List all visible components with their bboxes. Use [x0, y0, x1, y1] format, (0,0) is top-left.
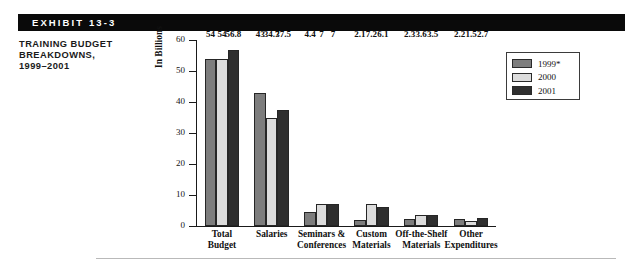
x-axis-category-label-line: Materials [352, 240, 390, 251]
y-tick-0: 0 [189, 226, 197, 227]
bar-1999-2[interactable] [254, 93, 266, 226]
bar-group: 4334.737.5Salaries [247, 40, 297, 226]
figure-title-line-3: 1999–2001 [19, 61, 154, 72]
x-axis-category-label-line: Budget [208, 240, 236, 251]
x-axis-category-label: TotalBudget [208, 229, 236, 250]
chart-plot-area: In Billions 0102030405060 545456.8TotalB… [156, 40, 496, 232]
bar-group: 2.21.52.7OtherExpenditures [446, 40, 496, 226]
bar-2000-2[interactable] [266, 118, 278, 226]
bar-slot: 43 [254, 40, 266, 226]
bar-value-label: 37.5 [275, 29, 291, 39]
bar-group: 2.33.63.5Off-the-ShelfMaterials [396, 40, 446, 226]
y-tick-10: 10 [189, 195, 197, 196]
y-tick-50: 50 [189, 71, 197, 72]
bar-2000-6[interactable] [465, 221, 477, 226]
legend-label-2001: 2001 [538, 86, 556, 96]
bar-group-bars: 545456.8 [197, 40, 247, 226]
x-axis-category-label-line: Expenditures [445, 240, 498, 251]
legend-swatch-2001 [512, 86, 532, 95]
bar-value-label: 7.2 [366, 29, 377, 39]
figure-title-line-1: TRAINING BUDGET [19, 39, 154, 50]
y-tick-20: 20 [189, 164, 197, 165]
bar-2000-5[interactable] [415, 215, 427, 226]
chart-legend: 1999* 2000 2001 [506, 52, 580, 100]
exhibit-figure: EXHIBIT 13-3 TRAINING BUDGET BREAKDOWNS,… [0, 0, 637, 268]
legend-swatch-2000 [512, 73, 532, 82]
x-axis-category-label-line: Total [208, 229, 236, 240]
y-axis-title: In Billions [154, 2, 164, 92]
bar-1999-5[interactable] [404, 219, 416, 226]
bar-1999-4[interactable] [354, 220, 366, 227]
bar-slot: 54 [216, 40, 228, 226]
y-tick-label-10: 10 [176, 189, 189, 199]
bar-groups: 545456.8TotalBudget4334.737.5Salaries4.4… [197, 40, 496, 226]
legend-item-1999: 1999* [512, 57, 574, 70]
bar-slot: 7.2 [366, 40, 378, 226]
bar-2000-4[interactable] [366, 204, 378, 226]
bar-slot: 56.8 [228, 40, 240, 226]
x-axis-category-label-line: Salaries [256, 229, 288, 240]
x-axis-category-label: CustomMaterials [352, 229, 390, 250]
bar-group-bars: 2.21.52.7 [446, 40, 496, 226]
bar-value-label: 3.5 [427, 29, 438, 39]
bar-2001-5[interactable] [427, 215, 439, 226]
bar-2001-4[interactable] [377, 207, 389, 226]
bar-1999-6[interactable] [454, 219, 466, 226]
y-tick-60: 60 [189, 40, 197, 41]
legend-swatch-1999 [512, 59, 532, 68]
bar-slot: 1.5 [465, 40, 477, 226]
x-axis-category-label-line: Materials [395, 240, 447, 251]
bar-slot: 2.1 [354, 40, 366, 226]
bar-2000-1[interactable] [216, 59, 228, 226]
y-tick-label-30: 30 [176, 127, 189, 137]
bar-1999-1[interactable] [205, 59, 217, 226]
y-tick-label-20: 20 [176, 158, 189, 168]
x-axis-category-label-line: Conferences [297, 240, 346, 251]
bar-value-label: 2.7 [477, 29, 488, 39]
bar-value-label: 56.8 [226, 29, 242, 39]
bar-group-bars: 4.477 [297, 40, 347, 226]
bar-value-label: 7 [331, 29, 336, 39]
bar-slot: 4.4 [304, 40, 316, 226]
bar-value-label: 2.3 [404, 29, 415, 39]
bar-group: 545456.8TotalBudget [197, 40, 247, 226]
bar-2001-1[interactable] [228, 50, 240, 226]
exhibit-tag-label: EXHIBIT 13-3 [32, 17, 116, 28]
bar-value-label: 6.1 [377, 29, 388, 39]
y-tick-label-40: 40 [176, 96, 189, 106]
bar-1999-3[interactable] [304, 212, 316, 226]
bar-group: 2.17.26.1CustomMaterials [347, 40, 397, 226]
x-axis-category-label: OtherExpenditures [445, 229, 498, 250]
y-tick-label-50: 50 [176, 65, 189, 75]
y-tick-30: 30 [189, 133, 197, 134]
x-axis-category-label-line: Custom [352, 229, 390, 240]
footer-rule [96, 258, 616, 259]
bar-group: 4.477Seminars &Conferences [297, 40, 347, 226]
bar-value-label: 2.1 [354, 29, 365, 39]
x-axis-line [196, 226, 496, 227]
bar-value-label: 7 [319, 29, 324, 39]
y-tick-label-60: 60 [176, 34, 189, 44]
bar-2001-2[interactable] [277, 110, 289, 226]
bar-slot: 2.7 [477, 40, 489, 226]
bar-group-bars: 2.33.63.5 [396, 40, 446, 226]
x-axis-category-label-line: Off-the-Shelf [395, 229, 447, 240]
bar-slot: 6.1 [377, 40, 389, 226]
figure-title-line-2: BREAKDOWNS, [19, 50, 154, 61]
bar-group-bars: 4334.737.5 [247, 40, 297, 226]
bar-2000-3[interactable] [316, 204, 328, 226]
bar-value-label: 3.6 [416, 29, 427, 39]
bar-slot: 7 [327, 40, 339, 226]
bar-value-label: 54 [206, 29, 215, 39]
bar-value-label: 4.4 [304, 29, 315, 39]
bar-2001-3[interactable] [327, 204, 339, 226]
bar-slot: 2.2 [454, 40, 466, 226]
bar-value-label: 2.2 [454, 29, 465, 39]
x-axis-category-label: Off-the-ShelfMaterials [395, 229, 447, 250]
bar-slot: 7 [316, 40, 328, 226]
bar-value-label: 1.5 [465, 29, 476, 39]
bar-2001-6[interactable] [477, 218, 489, 226]
y-tick-label-0: 0 [181, 220, 190, 230]
x-axis-category-label-line: Seminars & [297, 229, 346, 240]
legend-item-2000: 2000 [512, 71, 574, 84]
